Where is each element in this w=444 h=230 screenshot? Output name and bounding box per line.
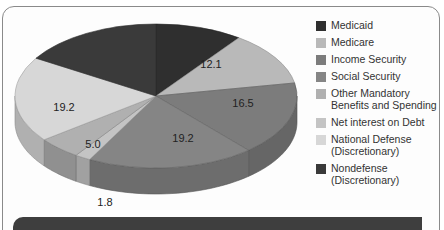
swatch-social-security (316, 72, 326, 82)
label-income-security: 16.5 (232, 97, 253, 109)
label-net-interest: 1.8 (97, 196, 112, 208)
legend-item-net-interest: Net interest on Debt (316, 116, 444, 128)
swatch-medicare (316, 38, 326, 48)
legend-item-medicaid: Medicaid (316, 19, 444, 31)
swatch-nondefense (316, 164, 326, 174)
pie-top-face (15, 24, 297, 168)
label-national-defense: 19.2 (53, 101, 74, 113)
legend: Medicaid Medicare Income Security Social… (316, 19, 444, 191)
legend-item-other-mandatory: Other Mandatory Benefits and Spending (316, 87, 444, 111)
legend-item-national-defense: National Defense (Discretionary) (316, 133, 444, 157)
legend-item-income-security: Income Security (316, 53, 444, 65)
legend-label: National Defense (Discretionary) (331, 133, 444, 157)
legend-label: Medicaid (331, 19, 373, 31)
legend-label: Income Security (331, 53, 406, 65)
swatch-net-interest (316, 118, 326, 128)
swatch-medicaid (316, 21, 326, 31)
swatch-income-security (316, 55, 326, 65)
legend-item-social-security: Social Security (316, 70, 444, 82)
legend-label: Net interest on Debt (331, 116, 424, 128)
swatch-national-defense (316, 135, 326, 145)
legend-label: Other Mandatory Benefits and Spending (331, 87, 444, 111)
label-other-mandatory: 5.0 (85, 138, 100, 150)
legend-label: Nondefense (Discretionary) (331, 162, 444, 186)
legend-label: Medicare (331, 36, 374, 48)
legend-item-nondefense: Nondefense (Discretionary) (316, 162, 444, 186)
label-medicare: 12.1 (200, 58, 221, 70)
label-social-security: 19.2 (172, 132, 193, 144)
legend-label: Social Security (331, 70, 400, 82)
legend-item-medicare: Medicare (316, 36, 444, 48)
dark-banner (13, 217, 422, 230)
swatch-other-mandatory (316, 89, 326, 99)
